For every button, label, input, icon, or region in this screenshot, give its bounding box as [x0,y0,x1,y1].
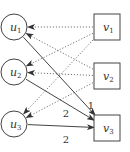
node-u3: u3 [1,111,27,137]
bipartite-graph: u1u2u3v1v2v3 122 [0,0,130,152]
node-v1: v1 [94,14,120,40]
node-u1: u1 [1,14,27,40]
edge-label-u2-v3: 2 [63,108,69,119]
node-v2: v2 [94,63,120,89]
edge-v2-u3 [26,83,93,118]
edges-layer [23,27,95,127]
edge-label-u1-v3: 1 [88,100,94,111]
edge-v2-u2 [28,73,93,76]
edge-labels-layer: 122 [63,100,94,145]
edge-v1-u2 [27,33,93,66]
edge-label-u3-v3: 2 [63,134,69,145]
node-v3: v3 [94,115,120,141]
edge-u3-v3 [28,125,94,128]
node-u2: u2 [1,59,27,85]
edge-u2-v3 [26,79,94,120]
